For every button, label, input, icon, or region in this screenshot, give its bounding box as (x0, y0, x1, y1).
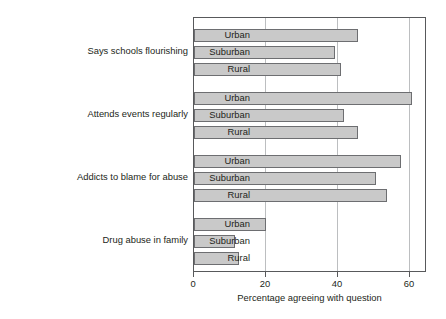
xtick-20 (265, 272, 266, 277)
sublabel-attends-events-regularly-suburban: Suburban (194, 109, 250, 120)
group-label-addicts-to-blame-for-abuse: Addicts to blame for abuse (77, 171, 188, 182)
xtick-0 (193, 272, 194, 277)
xtick-label-0: 0 (178, 278, 208, 289)
xtick-60 (409, 272, 410, 277)
group-label-attends-events-regularly: Attends events regularly (87, 108, 188, 119)
xtick-label-40: 40 (322, 278, 352, 289)
group-label-says-schools-flourishing: Says schools flourishing (87, 45, 188, 56)
gridline-60 (409, 18, 410, 271)
bar-chart: Says schools flourishing Attends events … (0, 0, 446, 319)
xtick-40 (337, 272, 338, 277)
sublabel-says-schools-flourishing-suburban: Suburban (194, 46, 250, 57)
sublabel-addicts-to-blame-for-abuse-suburban: Suburban (194, 172, 250, 183)
sublabel-drug-abuse-in-family-urban: Urban (194, 218, 250, 229)
group-label-drug-abuse-in-family: Drug abuse in family (103, 234, 188, 245)
sublabel-says-schools-flourishing-rural: Rural (194, 63, 250, 74)
sublabel-drug-abuse-in-family-rural: Rural (194, 252, 250, 263)
sublabel-attends-events-regularly-rural: Rural (194, 126, 250, 137)
sublabel-attends-events-regularly-urban: Urban (194, 92, 250, 103)
xtick-label-20: 20 (250, 278, 280, 289)
sublabel-addicts-to-blame-for-abuse-urban: Urban (194, 155, 250, 166)
gridline-40 (337, 18, 338, 271)
sublabel-addicts-to-blame-for-abuse-rural: Rural (194, 189, 250, 200)
sublabel-says-schools-flourishing-urban: Urban (194, 29, 250, 40)
xtick-label-60: 60 (394, 278, 424, 289)
sublabel-drug-abuse-in-family-suburban: Suburban (194, 235, 250, 246)
x-axis-title: Percentage agreeing with question (193, 292, 426, 303)
